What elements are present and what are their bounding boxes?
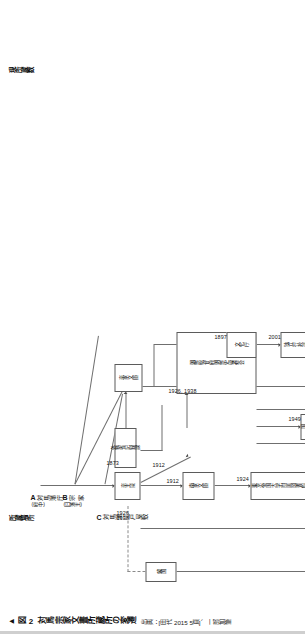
figure-caption-text: 対馬宗家文書所蔵所の変遷 [38,617,136,626]
year-1912-b: 1912 [152,462,164,468]
rotated-figure-canvas: ▲ 図 2 対馬宗家文書所蔵所の変遷 出典：[田代 2015 5頁]、一部加筆 … [0,0,305,634]
edge-soushuin-to-kankoku-dashed-v [127,571,145,572]
group-b-sub: (旧藩主) [63,502,84,508]
edge-gaimusho-to-soukebunko [125,392,126,428]
node-bunkacho[interactable]: 文化庁 [226,332,256,358]
group-label-a: A 対馬藩庁 (府中) [30,494,63,522]
node-souke-bunko[interactable]: 宗家文庫 [114,364,142,392]
year-1926-1938-a: 1926, 1938 [116,511,130,522]
edge-soukebunko-to-bunkacho-h [153,345,154,387]
arrow-gaimusho-to-soukebunko [123,392,127,394]
year-1897: 1897 [214,334,226,340]
group-b-id: B [62,494,67,501]
edge-soushuin-to-chosen [186,394,187,428]
node-dokuritsu-gyosei-hojin-kokuritsu-hakubutsukan[interactable]: 独立行政法人国立博物館 [280,332,305,358]
year-1924: 1924 [236,476,248,482]
edge-chosen-to-kankoku-kokushi [256,443,305,444]
edge-kankoku-to-nagasaki-lib [176,571,305,572]
year-1949: 1949 [288,416,300,422]
group-label-b: B 宗 家 (旧藩主) [62,494,84,522]
figure-body: ▲ 図 2 対馬宗家文書所蔵所の変遷 出典：[田代 2015 5頁]、一部加筆 … [0,0,305,634]
edge-chosen-to-koubun [256,409,305,410]
year-2001: 2001 [268,334,280,340]
group-a-sub: (府中) [31,502,63,508]
figure-caption-number: 図 2 [18,617,33,626]
edge-a-to-soukebunko [40,485,114,486]
column-header-holdings: 現所蔵数 [8,67,32,74]
edge-soushuin-to-gaimusho-v [140,450,162,451]
edge-soushuin-to-toyo-long [140,528,305,529]
edge-soushuin-to-nanke [140,485,182,486]
group-c-id: C [96,514,101,521]
figure-caption-marker: ▲ [6,617,15,626]
column-header-location: 所蔵場所 [8,515,32,522]
year-1926-1938-b: 1926, 1938 [168,388,196,394]
figure-caption-title: ▲ 図 2 対馬宗家文書所蔵所の変遷 [6,617,136,626]
group-a-id: A [30,494,35,501]
edge-chosen-to-kokkai [256,426,300,427]
edge-bunkacho-to-dokuritsu [256,344,280,345]
group-b-label: 宗 家 [69,494,84,501]
year-1912-a: 1912 [166,478,178,484]
node-nanke-bunko[interactable]: 南家文庫 [182,472,214,500]
year-1873: 1873 [106,460,118,466]
edge-nanke-to-todai-fuzoku [214,485,250,486]
figure-screenshot: ▲ 図 2 対馬宗家文書所蔵所の変遷 出典：[田代 2015 5頁]、一部加筆 … [0,0,305,634]
edge-soushuin-to-gaimusho-h [161,405,162,451]
node-kankoku[interactable]: 韓国 [145,562,176,582]
node-tokyo-teikoku-daigaku-fuzoku-toshokan[interactable]: 東京帝国大学附属図書館 [250,472,305,500]
node-soushuin[interactable]: 宗主院 [114,472,140,500]
figure-source: 出典：[田代 2015 5頁]、一部加筆 [140,619,230,626]
group-a-label: 対馬藩庁 [37,494,63,501]
